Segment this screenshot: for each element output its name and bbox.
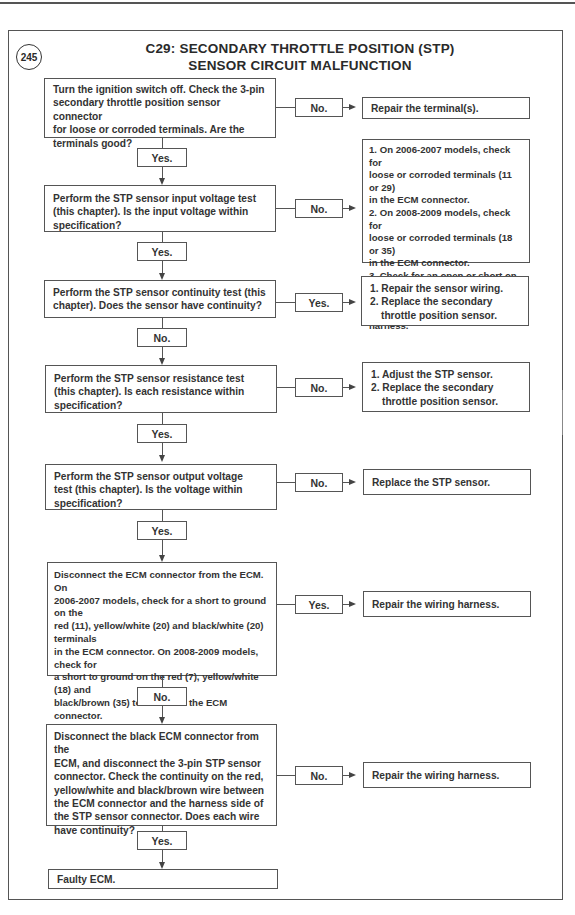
text-line: 2006-2007 models, check for a short to g… [54,595,270,621]
arrow-down-icon [159,455,165,462]
text-line: yellow/white and black/brown wire betwee… [54,784,269,797]
text-line: in the ECM connector. [369,257,523,270]
step-6-yes-label: Yes. [295,595,343,614]
arrow-right-icon [349,299,356,305]
connector-line [162,167,163,178]
text-line: Disconnect the black ECM connector from … [54,730,269,757]
text-line: chapter). Does the sensor have continuit… [53,299,267,312]
text-line: the ECM connector and the harness side o… [54,797,269,810]
text-line: specification? [53,219,267,232]
connector-line [162,676,163,687]
page-top-rule [0,2,575,4]
title-line-1: C29: SECONDARY THROTTLE POSITION (STP) [60,40,540,57]
text-line: the STP sensor connector. Does each wire [54,810,269,823]
step-7-no-label: No. [295,766,343,785]
arrow-right-icon [349,104,356,110]
arrow-right-icon [349,479,356,485]
arrow-down-icon [159,273,165,280]
step-5-question-box: Perform the STP sensor output voltage te… [45,464,277,510]
text-line: ECM, and disconnect the 3-pin STP sensor [54,757,269,770]
connector-line [162,261,163,273]
text-line: Faulty ECM. [57,873,269,886]
text-line: Perform the STP sensor output voltage [54,470,268,483]
step-6-no-label: No. [137,687,187,706]
text-line: throttle position sensor. [370,309,520,322]
text-line: Perform the STP sensor continuity test (… [53,286,267,299]
connector-line [277,482,295,483]
connector-line [162,706,163,717]
step-4-no-label: No. [295,378,343,397]
title-line-2: SENSOR CIRCUIT MALFUNCTION [60,57,540,74]
text-line: Replace the STP sensor. [372,476,522,489]
text-line: Disconnect the ECM connector from the EC… [54,569,270,595]
text-line: 2. On 2008-2009 models, check for [369,207,523,232]
step-2-yes-label: Yes. [137,242,187,261]
step-1-question-box: Turn the ignition switch off. Check the … [44,78,276,138]
arrow-right-icon [349,384,356,390]
step-5-yes-label: Yes. [137,521,187,540]
arrow-right-icon [349,772,356,778]
arrow-right-icon [349,601,356,607]
text-line: loose or corroded terminals (11 or 29) [369,169,523,194]
text-line: for loose or corroded terminals. Are the [53,123,267,136]
text-line: 1. Adjust the STP sensor. [371,368,521,381]
step-7-result-box: Repair the wiring harness. [363,762,531,788]
connector-line [162,850,163,862]
step-4-result-box: 1. Adjust the STP sensor. 2. Replace the… [362,362,530,412]
connector-line [162,347,163,358]
step-3-no-label: No. [137,328,187,347]
step-5-result-box: Replace the STP sensor. [363,469,531,495]
page-margin-tab-mark [562,390,563,435]
connector-line [162,232,163,242]
text-line: Repair the wiring harness. [372,769,522,782]
connector-line [276,107,295,108]
step-6-result-box: Repair the wiring harness. [363,591,531,617]
step-3-result-box: 1. Repair the sensor wiring. 2. Replace … [361,276,529,326]
figure-number-badge: 245 [16,44,42,70]
arrow-down-icon [159,178,165,185]
connector-line [276,302,295,303]
arrow-down-icon [159,862,165,869]
text-line: (this chapter). Is each resistance withi… [54,385,268,398]
text-line: Repair the terminal(s). [371,102,521,115]
step-2-question-box: Perform the STP sensor input voltage tes… [44,185,276,232]
text-line: Turn the ignition switch off. Check the … [53,83,267,96]
text-line: test (this chapter). Is the voltage with… [54,483,268,496]
connector-line [162,540,163,555]
text-line: Perform the STP sensor resistance test [54,372,268,385]
step-3-yes-label: Yes. [295,293,343,312]
step-2-no-label: No. [295,199,343,218]
arrow-down-icon [159,717,165,724]
connector-line [162,443,163,455]
connector-line [162,510,163,521]
text-line: (this chapter). Is the input voltage wit… [53,205,267,218]
connector-line [162,318,163,328]
text-line: in the ECM connector. On 2008-2009 model… [54,646,270,672]
text-line: 1. Repair the sensor wiring. [370,282,520,295]
step-4-question-box: Perform the STP sensor resistance test (… [45,365,277,413]
text-line: Repair the wiring harness. [372,598,522,611]
arrow-down-icon [159,555,165,562]
step-2-result-box: 1. On 2006-2007 models, check for loose … [362,139,530,263]
figure-title: C29: SECONDARY THROTTLE POSITION (STP) S… [60,40,540,74]
text-line: Perform the STP sensor input voltage tes… [53,192,267,205]
text-line: throttle position sensor. [371,395,521,408]
step-6-question-box: Disconnect the ECM connector from the EC… [47,562,277,676]
step-5-no-label: No. [295,473,343,492]
text-line: 2. Replace the secondary [370,295,520,308]
connector-line [277,775,295,776]
step-1-result-box: Repair the terminal(s). [362,97,530,119]
text-line: specification? [54,399,268,412]
step-3-question-box: Perform the STP sensor continuity test (… [44,280,276,318]
connector-line [162,413,163,424]
text-line: specification? [54,497,268,510]
connector-line [277,604,295,605]
step-7-question-box: Disconnect the black ECM connector from … [46,724,277,826]
connector-line [276,208,295,209]
step-4-yes-label: Yes. [137,424,187,443]
connector-line [277,387,295,388]
step-1-no-label: No. [295,98,343,117]
step-7-yes-label: Yes. [137,831,187,850]
text-line: 1. On 2006-2007 models, check for [369,144,523,169]
text-line: loose or corroded terminals (18 or 35) [369,232,523,257]
